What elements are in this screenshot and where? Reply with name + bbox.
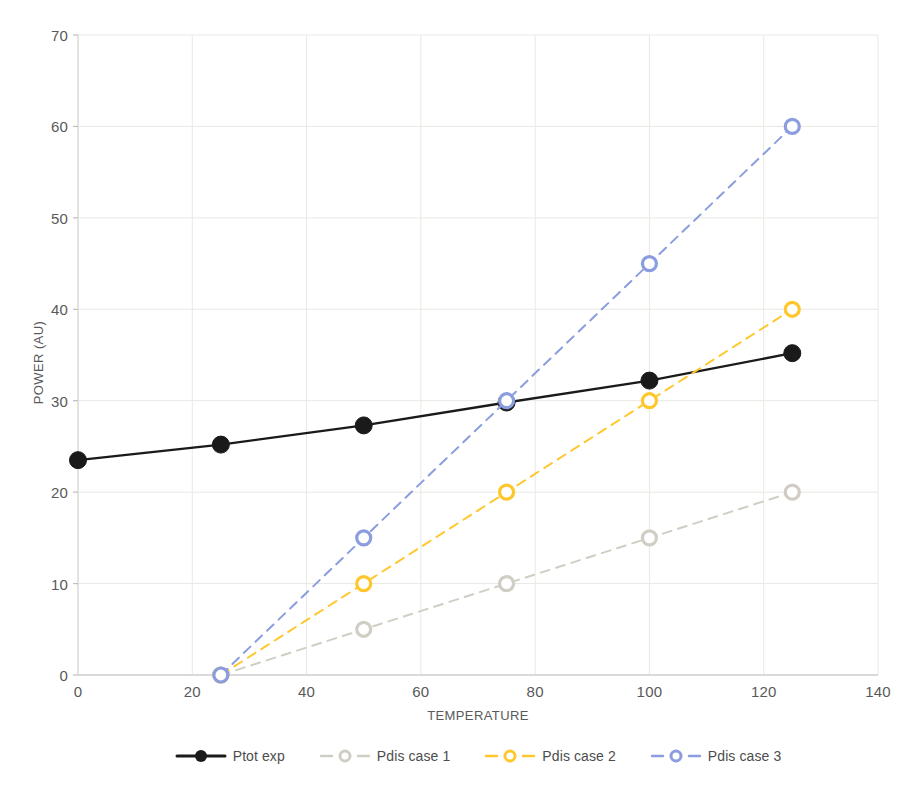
legend-label: Pdis case 1 xyxy=(377,748,450,764)
legend-item-4[interactable]: Pdis case 3 xyxy=(650,748,781,764)
data-point-marker xyxy=(642,394,656,408)
data-point-marker xyxy=(500,394,514,408)
series-1 xyxy=(70,345,801,469)
data-point-marker xyxy=(642,531,656,545)
data-point-marker xyxy=(785,302,799,316)
y-tick-label: 60 xyxy=(10,119,68,134)
legend-label: Ptot exp xyxy=(233,748,285,764)
legend-marker-icon xyxy=(484,748,536,764)
x-tick-label: 80 xyxy=(505,684,565,699)
legend-marker-icon xyxy=(319,748,371,764)
legend-item-2[interactable]: Pdis case 1 xyxy=(319,748,450,764)
data-point-marker xyxy=(785,485,799,499)
y-tick-label: 10 xyxy=(10,576,68,591)
data-point-marker xyxy=(500,485,514,499)
data-point-marker xyxy=(357,531,371,545)
data-point-marker xyxy=(357,577,371,591)
y-tick-label: 0 xyxy=(10,668,68,683)
grid-lines xyxy=(78,35,878,675)
legend-marker-icon xyxy=(175,748,227,764)
y-axis-title: POWER (AU) xyxy=(31,263,46,463)
series-line xyxy=(78,353,792,460)
y-tick-label: 20 xyxy=(10,485,68,500)
legend-item-3[interactable]: Pdis case 2 xyxy=(484,748,615,764)
legend-marker-icon xyxy=(650,748,702,764)
legend-label: Pdis case 3 xyxy=(708,748,781,764)
x-tick-label: 100 xyxy=(619,684,679,699)
axis-lines xyxy=(73,35,878,675)
x-tick-label: 140 xyxy=(848,684,908,699)
x-tick-label: 60 xyxy=(391,684,451,699)
legend-item-1[interactable]: Ptot exp xyxy=(175,748,285,764)
chart-legend: Ptot expPdis case 1Pdis case 2Pdis case … xyxy=(78,748,878,764)
data-point-marker xyxy=(500,577,514,591)
data-point-marker xyxy=(641,372,658,389)
x-tick-label: 20 xyxy=(162,684,222,699)
legend-label: Pdis case 2 xyxy=(542,748,615,764)
chart-container: 010203040506070 020406080100120140 POWER… xyxy=(0,0,916,806)
data-point-marker xyxy=(785,119,799,133)
data-point-marker xyxy=(212,436,229,453)
x-tick-label: 40 xyxy=(277,684,337,699)
x-tick-label: 120 xyxy=(734,684,794,699)
data-point-marker xyxy=(70,452,87,469)
data-point-marker xyxy=(357,622,371,636)
y-tick-label: 50 xyxy=(10,210,68,225)
data-point-marker xyxy=(642,257,656,271)
data-point-marker xyxy=(784,345,801,362)
data-point-marker xyxy=(214,668,228,682)
data-point-marker xyxy=(355,417,372,434)
x-tick-label: 0 xyxy=(48,684,108,699)
x-axis-title: TEMPERATURE xyxy=(78,708,878,723)
y-tick-label: 70 xyxy=(10,28,68,43)
